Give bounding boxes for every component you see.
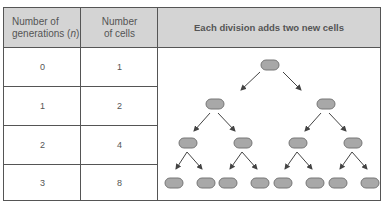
table-row: 0 1: [4, 48, 158, 87]
cells-value: 8: [81, 165, 158, 201]
cell-division-table: Number of generations (n) Number of cell…: [3, 7, 381, 201]
header-generations-suffix: ): [76, 28, 79, 39]
division-tree-diagram: [158, 48, 380, 200]
table-row: 1 2: [4, 87, 158, 126]
cell-gen3: [306, 178, 324, 188]
cells-value: 1: [81, 48, 158, 86]
cell-gen3: [274, 178, 292, 188]
header-cells-line2: of cells: [104, 28, 135, 39]
table-row: 3 8: [4, 165, 158, 201]
cell-gen3: [329, 178, 347, 188]
header-diagram: Each division adds two new cells: [158, 8, 380, 48]
header-cells-text: Number of cells: [102, 16, 138, 40]
cell-gen3: [251, 178, 269, 188]
cell-gen1: [317, 99, 335, 109]
header-cells: Number of cells: [81, 8, 158, 48]
header-diagram-text: Each division adds two new cells: [194, 22, 344, 33]
cell-gen0: [261, 60, 279, 70]
cells-value: 4: [81, 126, 158, 164]
header-generations-text: Number of generations (n): [12, 16, 79, 40]
header-cells-line1: Number: [102, 16, 138, 27]
header-generations-line1: Number of: [12, 16, 59, 27]
cell-gen2: [234, 138, 252, 148]
generations-value: 2: [4, 126, 81, 164]
cells-value: 2: [81, 87, 158, 125]
cell-gen3: [197, 178, 215, 188]
cell-gen2: [344, 138, 362, 148]
header-generations-line2: generations (: [12, 28, 70, 39]
cell-gen3: [219, 178, 237, 188]
generations-value: 0: [4, 48, 81, 86]
cell-gen2: [289, 138, 307, 148]
generations-value: 1: [4, 87, 81, 125]
header-generations: Number of generations (n): [4, 8, 81, 48]
generations-value: 3: [4, 165, 81, 201]
division-arrows: [176, 72, 367, 169]
cell-gen3: [165, 178, 183, 188]
cell-gen3: [361, 178, 379, 188]
table-row: 2 4: [4, 126, 158, 165]
cell-gen1: [206, 99, 224, 109]
cell-gen2: [179, 138, 197, 148]
